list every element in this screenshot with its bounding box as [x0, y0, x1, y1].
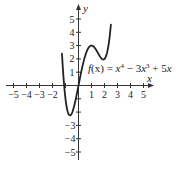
- function-graph: −5−4−3−21234512345−3−4−5 x y f(x) = x4 −…: [0, 0, 176, 171]
- x-tick-label: 3: [115, 89, 120, 100]
- y-tick-label: 3: [70, 40, 75, 51]
- x-tick-label: −5: [8, 89, 19, 100]
- y-tick-label: 2: [70, 53, 75, 64]
- x-tick-label: −3: [34, 89, 45, 100]
- y-tick-label: 1: [70, 67, 75, 78]
- x-tick-label: 2: [102, 89, 107, 100]
- y-tick-label: 4: [70, 27, 75, 38]
- x-tick-label: 1: [89, 89, 94, 100]
- x-tick-label: −4: [21, 89, 32, 100]
- function-label: f(x) = x4 − 3x3 + 5x: [88, 62, 172, 75]
- x-tick-label: 5: [141, 89, 146, 100]
- y-tick-label: 5: [70, 14, 75, 25]
- y-axis-arrow-icon: [76, 4, 81, 10]
- y-tick-label: −4: [65, 133, 76, 144]
- y-tick-label: −3: [65, 120, 76, 131]
- x-tick-label: 4: [128, 89, 133, 100]
- y-axis-label: y: [82, 2, 88, 14]
- x-tick-label: −2: [47, 89, 58, 100]
- y-tick-label: −5: [65, 147, 76, 158]
